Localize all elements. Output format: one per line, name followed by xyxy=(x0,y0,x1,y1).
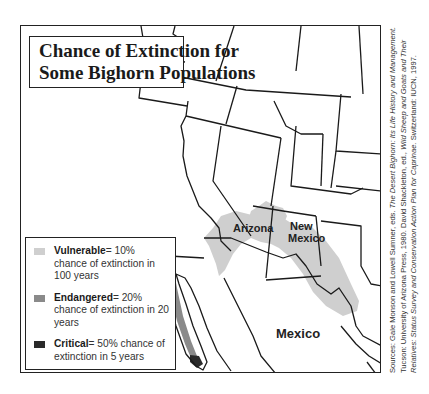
legend-item-vulnerable: Vulnerable= 10% chance of extinction in … xyxy=(54,245,169,283)
title-box: Chance of Extinction for Some Bighorn Po… xyxy=(29,36,184,88)
label-new-mexico-2: Mexico xyxy=(288,232,325,244)
source-citation: Sources: Gale Monson and Lowell Sumner, … xyxy=(388,25,420,373)
endangered-swatch-icon xyxy=(34,295,45,302)
legend: Vulnerable= 10% chance of extinction in … xyxy=(25,237,176,370)
title-line-1: Chance of Extinction for xyxy=(39,40,183,62)
vulnerable-swatch-icon xyxy=(34,248,45,255)
legend-term: Vulnerable xyxy=(54,245,106,256)
label-mexico: Mexico xyxy=(276,328,320,340)
critical-swatch-icon xyxy=(34,341,45,348)
map-frame: Chance of Extinction for Some Bighorn Po… xyxy=(20,25,381,373)
title-line-2: Some Bighorn Populations xyxy=(39,62,183,84)
legend-item-endangered: Endangered= 20% chance of extinction in … xyxy=(54,292,169,330)
legend-term: Critical xyxy=(54,338,89,349)
source-book-1: The Desert Bighorn: Its Life History and… xyxy=(388,27,397,209)
source-suffix: Switzerland: IUCN, 1997. xyxy=(409,55,418,142)
label-new-mexico-1: New xyxy=(290,220,313,232)
legend-term: Endangered xyxy=(54,292,113,303)
source-prefix: Sources: Gale Monson and Lowell Sumner, … xyxy=(388,208,397,373)
label-arizona: Arizona xyxy=(233,222,273,234)
legend-item-critical: Critical= 50% chance of extinction in 5 … xyxy=(54,338,169,363)
source-mid: Tucson: University of Arizona Press, 198… xyxy=(399,150,408,373)
